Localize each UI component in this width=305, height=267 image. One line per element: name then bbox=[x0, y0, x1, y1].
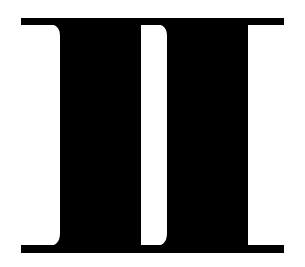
left-stem bbox=[48, 24, 141, 246]
top-serif-bar bbox=[21, 18, 284, 25]
roman-numeral-two-icon bbox=[0, 0, 305, 267]
right-stem bbox=[155, 24, 248, 246]
bottom-serif-bar bbox=[21, 245, 284, 253]
figure-canvas: II bbox=[0, 0, 305, 267]
